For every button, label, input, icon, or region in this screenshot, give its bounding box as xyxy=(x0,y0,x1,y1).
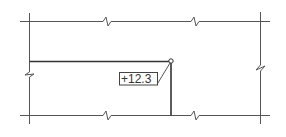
left-boundary-line xyxy=(25,13,34,124)
bottom-boundary-line xyxy=(20,111,270,120)
leader-line xyxy=(157,63,170,85)
top-boundary-line xyxy=(20,17,270,26)
section-outline xyxy=(30,62,172,116)
elevation-point-icon xyxy=(169,59,173,63)
elevation-label: +12.3 xyxy=(121,72,152,86)
plan-drawing: +12.3 xyxy=(0,0,286,137)
right-boundary-line xyxy=(256,12,265,124)
